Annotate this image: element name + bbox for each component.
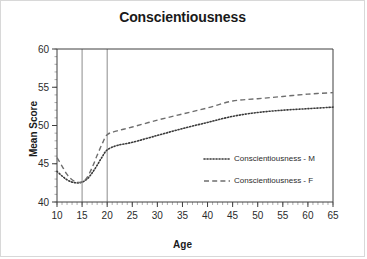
x-tick-label: 20 — [102, 210, 114, 221]
chart-legend: Conscientiousness - MConscientiousness -… — [204, 154, 315, 185]
x-tick-label: 45 — [227, 210, 239, 221]
y-tick-label: 45 — [38, 158, 50, 169]
y-tick-label: 40 — [38, 197, 50, 208]
series-line-female — [57, 93, 333, 183]
chart-container: Conscientiousness Mean Score Age 4045505… — [0, 0, 365, 257]
x-tick-label: 60 — [302, 210, 314, 221]
y-tick-label: 50 — [38, 120, 50, 131]
y-tick-label: 60 — [38, 44, 50, 55]
x-axis-tick-labels: 101520253035404550556065 — [51, 210, 339, 221]
x-axis-major-ticks — [57, 202, 333, 207]
x-tick-label: 50 — [252, 210, 264, 221]
data-series — [57, 93, 333, 183]
x-tick-label: 15 — [77, 210, 89, 221]
y-tick-label: 55 — [38, 82, 50, 93]
x-tick-label: 30 — [152, 210, 164, 221]
x-tick-label: 25 — [127, 210, 139, 221]
x-tick-label: 55 — [277, 210, 289, 221]
x-tick-label: 65 — [327, 210, 339, 221]
x-tick-label: 35 — [177, 210, 189, 221]
x-tick-label: 10 — [51, 210, 63, 221]
legend-label: Conscientiousness - M — [234, 154, 315, 163]
series-line-male — [57, 107, 333, 183]
x-tick-label: 40 — [202, 210, 214, 221]
plot-area: 4045505560 101520253035404550556065 Cons… — [1, 1, 366, 258]
y-axis-tick-labels: 4045505560 — [38, 44, 50, 208]
legend-label: Conscientiousness - F — [234, 176, 313, 185]
